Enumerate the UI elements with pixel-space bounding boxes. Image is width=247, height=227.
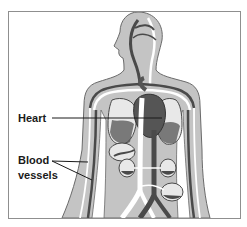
blood-vessels-label-line1: Blood xyxy=(18,154,49,167)
heart-label: Heart xyxy=(18,112,46,125)
blood-vessels-label-line2: vessels xyxy=(18,169,58,182)
